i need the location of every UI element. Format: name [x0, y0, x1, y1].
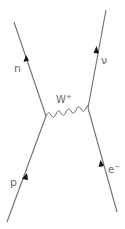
proton-label: p: [10, 176, 17, 189]
w-boson-symbol: W: [56, 94, 66, 105]
w-boson-propagator: [46, 105, 88, 117]
feynman-diagram: n ν p e− W+: [0, 0, 125, 229]
neutron-label: n: [14, 62, 21, 75]
neutron-arrow-icon: [24, 55, 30, 62]
w-boson-label: W+: [56, 93, 72, 105]
electron-line: [88, 108, 117, 212]
electron-charge: −: [114, 163, 120, 171]
w-boson-charge: +: [66, 93, 72, 101]
electron-label: e−: [108, 163, 120, 175]
neutrino-label: ν: [101, 54, 107, 67]
proton-line: [7, 116, 46, 222]
